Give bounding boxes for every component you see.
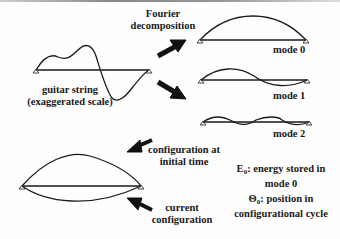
config-current-label: current configuration — [142, 202, 222, 226]
config-current-line1: current — [142, 202, 222, 214]
guitar-label: guitar string (exaggerated scale) — [20, 84, 120, 108]
energy-line1: : energy stored in — [247, 163, 325, 174]
theta-symbol: Θ — [249, 193, 257, 204]
energy-line2: mode 0 — [222, 178, 340, 190]
theta-label: Θ0: position in configurational cycle — [222, 193, 340, 220]
config-initial-line2: initial time — [144, 156, 224, 168]
config-current-line2: configuration — [142, 214, 222, 226]
energy-symbol: E — [237, 163, 244, 174]
config-initial-label: configuration at initial time — [144, 144, 224, 168]
fourier-line2: decomposition — [118, 20, 208, 32]
mode1-label: mode 1 — [273, 90, 305, 102]
mode2-label: mode 2 — [273, 128, 305, 140]
mode0-label: mode 0 — [273, 44, 305, 56]
energy-label: E0: energy stored in mode 0 — [222, 163, 340, 190]
diagram-canvas: Fourier decomposition guitar string (exa… — [0, 0, 340, 239]
config-initial-line1: configuration at — [144, 144, 224, 156]
guitar-line1: guitar string — [20, 84, 120, 96]
theta-line2: configurational cycle — [222, 208, 340, 220]
guitar-line2: (exaggerated scale) — [20, 96, 120, 108]
fourier-label: Fourier decomposition — [118, 8, 208, 32]
theta-line1: : position in — [260, 193, 313, 204]
fourier-line1: Fourier — [118, 8, 208, 20]
